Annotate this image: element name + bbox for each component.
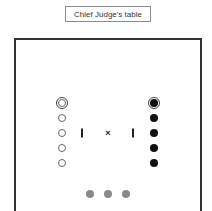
left-open-circle-marker: [58, 144, 66, 152]
cross-marker: ×: [105, 129, 110, 138]
right-filled-circle-marker: [150, 159, 158, 167]
left-open-circle-marker: [58, 114, 66, 122]
right-filled-circle-marker: [150, 114, 158, 122]
gray-dot-marker: [86, 190, 94, 198]
right-filled-circle-marker: [150, 129, 158, 137]
table-area: [14, 38, 202, 211]
chief-judge-table-label: Chief Judge's table: [65, 6, 151, 22]
right-filled-circle-marker: [150, 99, 158, 107]
left-open-circle-marker: [58, 159, 66, 167]
right-filled-circle-marker: [150, 144, 158, 152]
gray-dot-marker: [104, 190, 112, 198]
bar-marker: [81, 129, 83, 138]
gray-dot-marker: [122, 190, 130, 198]
left-open-circle-marker: [58, 129, 66, 137]
left-open-circle-marker: [58, 99, 66, 107]
bar-marker: [132, 129, 134, 138]
